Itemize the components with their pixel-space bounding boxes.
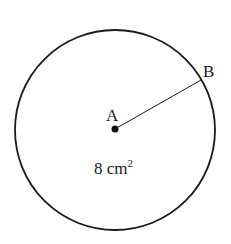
area-value: 8 cm bbox=[94, 159, 128, 178]
label-a: A bbox=[106, 106, 119, 125]
area-superscript: 2 bbox=[128, 157, 134, 169]
circle-diagram: A B 8 cm2 bbox=[0, 0, 231, 244]
label-b: B bbox=[203, 62, 214, 81]
center-point-a bbox=[112, 126, 119, 133]
radius-segment-ab bbox=[115, 80, 201, 129]
area-label: 8 cm2 bbox=[94, 157, 133, 178]
